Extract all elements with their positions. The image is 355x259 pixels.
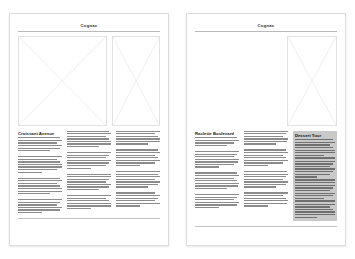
body-text — [295, 139, 335, 218]
image-placeholder-tall[interactable] — [112, 36, 160, 126]
column-raclette-boulevard[interactable]: Raclette Boulevard — [195, 131, 239, 221]
body-text — [244, 131, 288, 207]
figure-group-right — [195, 36, 337, 126]
page-left[interactable]: Cognac Croissant Avenue — [9, 13, 169, 246]
placeholder-cross-icon — [288, 37, 336, 125]
running-head-left: Cognac — [18, 23, 160, 29]
document-spread: Cognac Croissant Avenue — [0, 0, 355, 259]
column-two-right[interactable] — [244, 131, 288, 221]
article-title: Croissant Avenue — [18, 131, 62, 136]
page-right[interactable]: Cognac Raclette Boulevard — [186, 13, 346, 246]
image-placeholder-wide[interactable] — [18, 36, 107, 126]
running-head-right: Cognac — [195, 23, 337, 29]
header-rule-right — [195, 31, 337, 32]
body-text — [18, 137, 62, 213]
column-dessert-tour-sidebar[interactable]: Dessert Tour — [293, 131, 337, 221]
column-croissant-avenue[interactable]: Croissant Avenue — [18, 131, 62, 214]
figure-group-left — [18, 36, 160, 126]
article-title: Raclette Boulevard — [195, 131, 239, 136]
text-columns-left: Croissant Avenue — [18, 131, 160, 214]
text-columns-right: Raclette Boulevard — [195, 131, 337, 221]
placeholder-cross-icon — [19, 37, 106, 125]
footer-rule-left — [18, 218, 160, 219]
placeholder-cross-icon — [113, 37, 159, 125]
footer-rule-right — [195, 226, 337, 227]
sidebar-title: Dessert Tour — [295, 133, 335, 138]
column-two-left[interactable] — [67, 131, 111, 214]
body-text — [67, 131, 111, 210]
body-text — [195, 137, 239, 208]
column-three-left[interactable] — [116, 131, 160, 214]
image-placeholder-tall[interactable] — [287, 36, 337, 126]
header-rule-left — [18, 31, 160, 32]
body-text — [116, 131, 160, 207]
